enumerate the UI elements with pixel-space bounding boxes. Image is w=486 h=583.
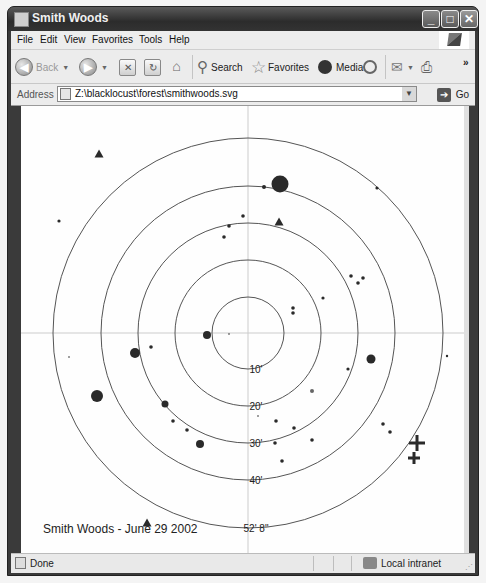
stop-icon: ✕ xyxy=(119,59,136,76)
menu-bar: File Edit View Favorites Tools Help xyxy=(11,31,475,50)
status-bar: Done Local intranet ⋰ xyxy=(11,553,475,573)
menu-help[interactable]: Help xyxy=(169,34,190,45)
tree-point xyxy=(185,428,189,432)
local-intranet-icon xyxy=(363,557,377,569)
cross-marker-icon xyxy=(416,435,419,451)
tree-point xyxy=(388,430,392,434)
tree-point xyxy=(274,419,278,423)
resize-grip[interactable]: ⋰ xyxy=(465,562,473,571)
refresh-icon: ↻ xyxy=(144,59,161,76)
address-dropdown-icon[interactable]: ▼ xyxy=(402,87,416,101)
ring-label: 10' xyxy=(249,364,262,375)
tree-point xyxy=(349,274,353,278)
minimize-button[interactable]: _ xyxy=(422,10,440,28)
mail-button[interactable]: ✉ ▼ xyxy=(391,57,414,77)
back-arrow-icon: ◀ xyxy=(15,58,33,76)
tree-point xyxy=(203,331,211,339)
tree-point xyxy=(446,355,448,357)
toolbar-overflow-chevron[interactable]: » xyxy=(463,52,469,72)
plot-title: Smith Woods - June 29 2002 xyxy=(43,522,198,536)
forward-arrow-icon: ▶ xyxy=(79,58,97,76)
tree-point xyxy=(346,367,349,370)
tree-point xyxy=(222,235,226,239)
forward-button[interactable]: ▶ ▼ xyxy=(79,57,108,77)
tree-point xyxy=(361,276,365,280)
tree-point xyxy=(91,390,103,402)
page-icon xyxy=(60,88,71,100)
page-done-icon xyxy=(15,557,26,569)
tree-point xyxy=(149,345,153,349)
menu-view[interactable]: View xyxy=(64,34,86,45)
standard-toolbar: ◀ Back ▼ ▶ ▼ ✕ ↻ ⌂ ⚲ Search ☆ Favorites … xyxy=(11,50,475,84)
triangle-markers xyxy=(95,150,284,527)
tree-point xyxy=(228,333,230,335)
media-button[interactable]: Media xyxy=(318,57,363,77)
maximize-button[interactable]: □ xyxy=(441,10,459,28)
cross-marker-icon xyxy=(413,452,416,464)
menu-edit[interactable]: Edit xyxy=(40,34,57,45)
forward-dropdown-icon[interactable]: ▼ xyxy=(101,64,108,71)
triangle-marker-icon xyxy=(275,218,284,226)
back-button[interactable]: ◀ Back ▼ xyxy=(15,57,69,77)
tree-point xyxy=(280,459,284,463)
security-zone: Local intranet xyxy=(381,558,441,569)
address-value: Z:\blacklocust\forest\smithwoods.svg xyxy=(75,88,238,99)
favorites-button[interactable]: ☆ Favorites xyxy=(251,57,309,77)
menu-tools[interactable]: Tools xyxy=(139,34,162,45)
go-button[interactable]: ➔ Go xyxy=(437,87,469,102)
back-dropdown-icon[interactable]: ▼ xyxy=(62,64,69,71)
home-button[interactable]: ⌂ xyxy=(168,57,185,77)
tree-point xyxy=(272,176,289,193)
favorites-star-icon: ☆ xyxy=(251,57,266,78)
address-input[interactable]: Z:\blacklocust\forest\smithwoods.svg ▼ xyxy=(57,86,417,102)
stop-button[interactable]: ✕ xyxy=(119,57,136,77)
plot-crosshair xyxy=(21,106,464,553)
tree-point xyxy=(162,401,169,408)
svg-document-view[interactable]: 10'20'30'40'52' 8" Smith Woods - June 29… xyxy=(21,106,469,553)
menu-file[interactable]: File xyxy=(17,34,33,45)
printer-icon: ⎙ xyxy=(421,59,432,76)
print-button[interactable]: ⎙ xyxy=(421,57,432,77)
stem-map-plot: 10'20'30'40'52' 8" Smith Woods - June 29… xyxy=(21,106,464,553)
close-button[interactable]: ✕ xyxy=(460,10,478,28)
tree-point xyxy=(68,356,70,358)
window-title: Smith Woods xyxy=(32,11,108,25)
search-magnifier-icon: ⚲ xyxy=(197,58,208,76)
ie-app-icon xyxy=(14,12,29,27)
ring-label: 20' xyxy=(249,401,262,412)
browser-window: Smith Woods _ □ ✕ File Edit View Favorit… xyxy=(7,6,479,576)
tree-point xyxy=(381,422,385,426)
status-divider xyxy=(333,556,334,571)
menu-favorites[interactable]: Favorites xyxy=(92,34,133,45)
history-clock-icon xyxy=(363,60,377,74)
ring-label: 52' 8" xyxy=(244,523,269,534)
address-label: Address xyxy=(17,89,54,100)
mail-envelope-icon: ✉ xyxy=(391,59,403,75)
history-button[interactable] xyxy=(363,57,377,77)
tree-point xyxy=(291,311,295,315)
cross-markers xyxy=(408,435,425,464)
tree-point xyxy=(310,438,314,442)
tree-point xyxy=(196,440,204,448)
tree-point xyxy=(356,281,360,285)
tree-point xyxy=(310,389,314,393)
tree-point xyxy=(273,441,277,445)
home-icon: ⌂ xyxy=(168,59,185,76)
status-text: Done xyxy=(30,558,54,569)
search-button[interactable]: ⚲ Search xyxy=(197,57,243,77)
tree-point xyxy=(241,214,245,218)
ring-label: 40' xyxy=(249,475,262,486)
address-bar: Address Z:\blacklocust\forest\smithwoods… xyxy=(11,84,475,106)
tree-point xyxy=(291,306,295,310)
title-bar[interactable]: Smith Woods _ □ ✕ xyxy=(8,7,478,31)
media-globe-icon xyxy=(318,60,332,74)
toolbar-divider xyxy=(385,55,386,79)
tree-point xyxy=(130,348,140,358)
refresh-button[interactable]: ↻ xyxy=(144,57,161,77)
status-divider xyxy=(351,556,352,571)
tree-point xyxy=(227,224,231,228)
mail-dropdown-icon[interactable]: ▼ xyxy=(407,64,414,71)
go-arrow-icon: ➔ xyxy=(437,88,451,102)
toolbar-divider xyxy=(192,55,193,79)
tree-point xyxy=(367,355,376,364)
